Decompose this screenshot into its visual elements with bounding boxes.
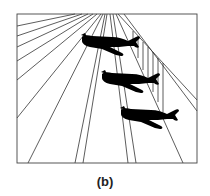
airplane-icon	[81, 33, 140, 56]
airplane-icon	[120, 106, 179, 129]
figure-caption: (b)	[0, 174, 210, 189]
ponzo-illusion-diagram	[0, 0, 210, 196]
rail-hatching	[133, 31, 163, 112]
airplane-icon	[101, 70, 160, 93]
perspective-lines	[17, 14, 197, 163]
frame-border	[17, 14, 197, 163]
